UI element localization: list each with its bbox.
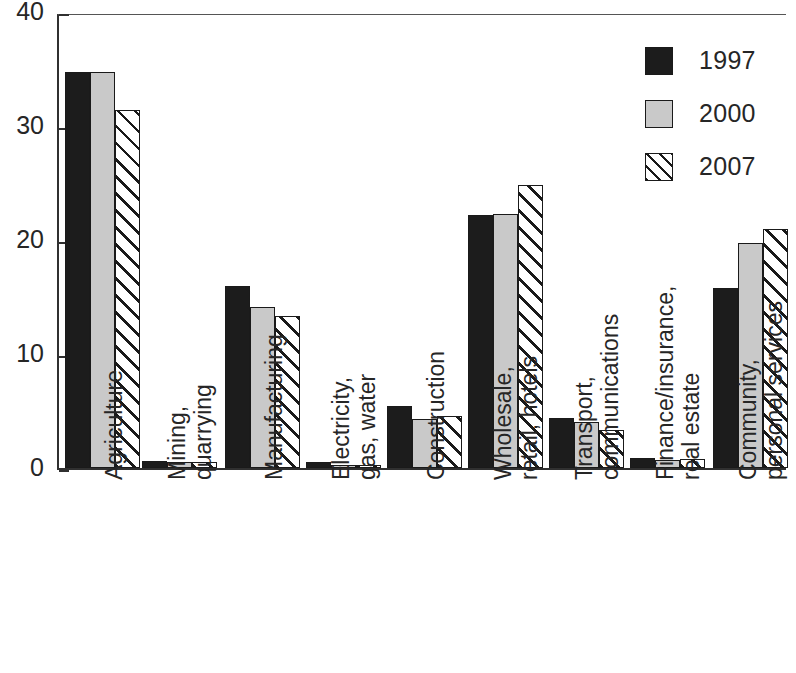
x-axis-label-4: Construction [423, 351, 449, 480]
x-axis-label-5: Wholesale,retail, hotels [490, 356, 542, 480]
x-axis-label-line: Electricity, [328, 374, 354, 480]
y-axis-tick [59, 470, 69, 472]
x-axis-label-line: personal services [761, 301, 787, 480]
x-axis-label-1: Mining,quarrying [164, 384, 216, 480]
x-axis-label-line: Agriculture [101, 370, 127, 480]
legend-label: 2000 [699, 99, 756, 128]
x-axis-label-line: Construction [423, 351, 449, 480]
x-axis-label-3: Electricity,gas, water [328, 374, 380, 480]
bar-1997-0 [65, 72, 90, 468]
x-axis-label-0: Agriculture [101, 370, 127, 480]
x-axis-label-line: Finance/insurance, [652, 286, 678, 480]
legend-item-1997: 1997 [645, 34, 795, 87]
chart-legend: 199720002007 [645, 34, 795, 193]
x-axis-label-line: Manufacturing [261, 334, 287, 480]
x-axis-label-line: retail, hotels [516, 356, 542, 480]
legend-swatch-icon [645, 47, 673, 75]
bar-1997-4 [387, 406, 412, 468]
x-axis-label-line: Transport, [571, 314, 597, 480]
x-axis-label-line: Community, [735, 301, 761, 480]
bar-1997-2 [225, 286, 250, 468]
y-axis-tick-label: 30 [0, 111, 44, 140]
legend-swatch-icon [645, 153, 673, 181]
x-axis-label-line: Wholesale, [490, 356, 516, 480]
x-axis-label-line: communications [597, 314, 623, 480]
legend-label: 1997 [699, 46, 756, 75]
legend-swatch-icon [645, 100, 673, 128]
x-axis-label-7: Finance/insurance,real estate [652, 286, 704, 480]
legend-label: 2007 [699, 152, 756, 181]
bar-chart: 010203040 AgricultureMining,quarryingMan… [0, 0, 796, 673]
y-axis-tick-label: 0 [0, 453, 44, 482]
x-axis-label-line: real estate [678, 286, 704, 480]
y-axis-tick-label: 40 [0, 0, 44, 26]
x-axis-label-line: Mining, [164, 384, 190, 480]
x-axis-label-line: quarrying [190, 384, 216, 480]
x-axis-label-line: gas, water [354, 374, 380, 480]
y-axis-tick-label: 10 [0, 339, 44, 368]
x-axis-label-2: Manufacturing [261, 334, 287, 480]
legend-item-2000: 2000 [645, 87, 795, 140]
x-axis-label-6: Transport,communications [571, 314, 623, 480]
x-axis-label-8: Community,personal services [735, 301, 787, 480]
y-axis-tick-label: 20 [0, 225, 44, 254]
legend-item-2007: 2007 [645, 140, 795, 193]
